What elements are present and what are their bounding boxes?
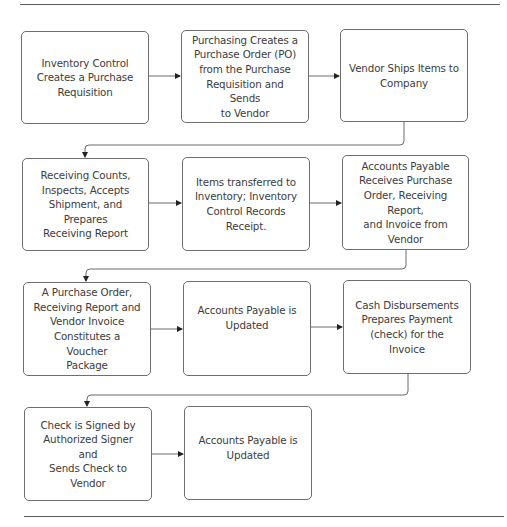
step-box-create-po: Purchasing Creates a Purchase Order (PO)… xyxy=(181,30,309,123)
step-box-voucher-package: A Purchase Order, Receiving Report and V… xyxy=(23,282,151,376)
step-box-ap-updated-2: Accounts Payable is Updated xyxy=(184,406,312,500)
step-box-vendor-ships: Vendor Ships Items to Company xyxy=(340,29,468,122)
bottom-rule xyxy=(24,516,504,517)
step-label: Items transferred to Inventory; Inventor… xyxy=(195,175,297,233)
step-box-receiving: Receiving Counts, Inspects, Accepts Ship… xyxy=(22,158,149,251)
step-box-cash-disbursements: Cash Disbursements Prepares Payment (che… xyxy=(343,280,471,374)
step-box-create-requisition: Inventory Control Creates a Purchase Req… xyxy=(21,31,149,124)
step-label: Receiving Counts, Inspects, Accepts Ship… xyxy=(31,168,140,241)
arrow-s9-s10 xyxy=(87,374,408,406)
step-label: Purchasing Creates a Purchase Order (PO)… xyxy=(190,33,300,121)
step-label: Cash Disbursements Prepares Payment (che… xyxy=(352,298,462,356)
step-box-check-signed: Check is Signed by Authorized Signer and… xyxy=(24,407,152,501)
step-box-items-transferred: Items transferred to Inventory; Inventor… xyxy=(182,157,310,251)
step-box-ap-updated-1: Accounts Payable is Updated xyxy=(183,281,311,376)
step-label: A Purchase Order, Receiving Report and V… xyxy=(32,285,142,373)
step-label: Accounts Payable Receives Purchase Order… xyxy=(351,159,460,247)
step-label: Accounts Payable is Updated xyxy=(197,303,296,332)
step-label: Vendor Ships Items to Company xyxy=(349,61,459,90)
arrow-s6-s7 xyxy=(86,250,406,281)
top-rule xyxy=(20,4,500,5)
arrow-s3-s4 xyxy=(85,122,404,157)
step-box-ap-receives: Accounts Payable Receives Purchase Order… xyxy=(342,155,469,250)
step-label: Inventory Control Creates a Purchase Req… xyxy=(37,56,134,100)
step-label: Accounts Payable is Updated xyxy=(198,433,297,462)
step-label: Check is Signed by Authorized Signer and… xyxy=(33,418,143,491)
